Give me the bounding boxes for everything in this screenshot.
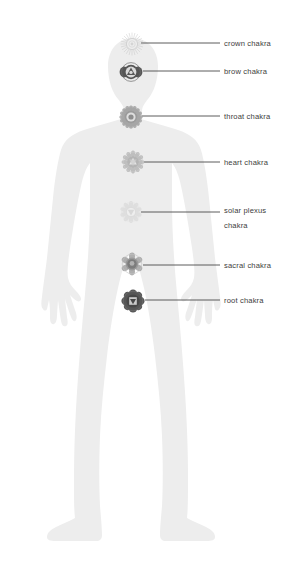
- crown-chakra-symbol[interactable]: [121, 33, 143, 55]
- chakra-body-diagram: crown chakra brow chakra throat chakra h…: [0, 0, 302, 580]
- root-chakra-symbol[interactable]: [121, 289, 144, 312]
- label-solar-plexus-chakra-line1: solar plexus: [224, 206, 266, 215]
- label-sacral-chakra: sacral chakra: [224, 261, 272, 270]
- throat-chakra-symbol[interactable]: [119, 105, 142, 128]
- label-solar-plexus-chakra-line2: chakra: [224, 221, 248, 230]
- label-root-chakra: root chakra: [224, 296, 264, 305]
- body-torso-limbs: [41, 118, 220, 541]
- label-throat-chakra: throat chakra: [224, 112, 271, 121]
- label-crown-chakra: crown chakra: [224, 39, 272, 48]
- label-brow-chakra: brow chakra: [224, 67, 268, 76]
- label-heart-chakra: heart chakra: [224, 158, 269, 167]
- chakra-labels-group: crown chakra brow chakra throat chakra h…: [224, 39, 272, 305]
